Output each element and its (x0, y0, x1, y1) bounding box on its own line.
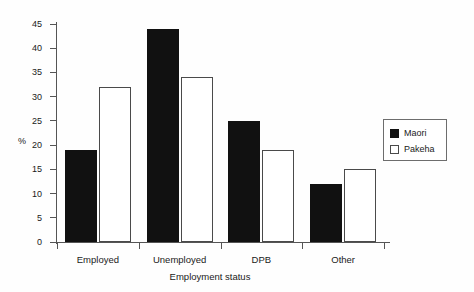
y-axis-tick-label: 35 (32, 68, 42, 77)
x-axis-title: Employment status (0, 272, 474, 282)
y-axis-tick-mark (50, 120, 57, 121)
plot-area (57, 24, 384, 242)
legend-swatch-filled-icon (390, 129, 399, 138)
legend-label-pakeha: Pakeha (404, 145, 435, 154)
bar-pakeha-other (344, 169, 376, 242)
bar-pakeha-employed (99, 87, 131, 242)
y-axis-tick-mark (50, 242, 57, 243)
legend: Maori Pakeha (383, 119, 447, 161)
y-axis-tick-label: 45 (32, 20, 42, 29)
x-axis-line (57, 242, 390, 243)
x-axis-category-label: Other (331, 255, 355, 265)
y-axis-tick-label: 30 (32, 92, 42, 101)
x-axis-category-label: DPB (252, 255, 272, 265)
y-axis-tick-label: 15 (32, 165, 42, 174)
x-axis-tick (302, 243, 303, 249)
y-axis-title: % (18, 137, 26, 146)
y-axis-tick-label: 10 (32, 189, 42, 198)
bar-pakeha-unemployed (181, 77, 213, 242)
y-axis-tick-label: 5 (37, 213, 42, 222)
y-axis-tick-label: 25 (32, 116, 42, 125)
x-axis-tick (139, 243, 140, 249)
y-axis-tick-mark (50, 169, 57, 170)
bar-maori-unemployed (147, 29, 179, 242)
bar-maori-dpb (228, 121, 260, 242)
y-axis-tick-mark (50, 96, 57, 97)
legend-item-pakeha: Pakeha (390, 141, 446, 157)
y-axis-tick-mark (50, 217, 57, 218)
x-axis-tick (384, 243, 385, 249)
x-axis-tick (57, 243, 58, 249)
x-axis-title-text: Employment status (170, 272, 251, 282)
bar-maori-employed (65, 150, 97, 242)
y-axis-tick-label: 40 (32, 44, 42, 53)
y-axis-tick-mark (50, 145, 57, 146)
y-axis-tick-mark (50, 72, 57, 73)
bar-chart: % 051015202530354045 EmployedUnemployedD… (0, 0, 474, 292)
y-axis-tick-mark (50, 193, 57, 194)
y-axis-tick-mark (50, 48, 57, 49)
legend-swatch-hollow-icon (390, 145, 399, 154)
y-axis-tick-mark (50, 24, 57, 25)
x-axis-tick (221, 243, 222, 249)
x-axis-category-label: Employed (77, 255, 119, 265)
x-axis-category-label: Unemployed (153, 255, 206, 265)
legend-item-maori: Maori (390, 125, 446, 141)
bar-pakeha-dpb (262, 150, 294, 242)
legend-label-maori: Maori (404, 129, 427, 138)
y-axis-tick-label: 20 (32, 141, 42, 150)
y-axis-tick-label: 0 (37, 238, 42, 247)
bar-maori-other (310, 184, 342, 242)
